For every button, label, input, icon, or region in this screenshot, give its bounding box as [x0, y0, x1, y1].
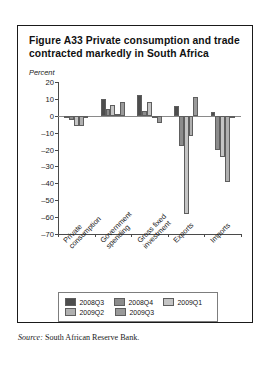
legend-item: 2009Q2 [65, 308, 115, 316]
chart-bar [147, 102, 152, 116]
y-tick-label: –10 [41, 128, 54, 137]
y-axis-unit-label: Percent [29, 68, 54, 77]
y-tick-label: –20 [41, 145, 54, 154]
y-tick-mark [55, 166, 58, 167]
y-tick-mark [55, 116, 58, 117]
y-tick-label: 0 [50, 111, 54, 120]
legend-swatch [163, 298, 174, 306]
chart-bar [174, 106, 179, 116]
figure-title: Figure A33 Private consumption and trade… [29, 34, 243, 60]
legend-item: 2008Q3 [65, 298, 114, 306]
y-tick-label: –50 [41, 196, 54, 205]
legend-item: 2009Q3 [115, 308, 165, 316]
chart-bar [120, 102, 125, 116]
source-note: Source: South African Reserve Bank. [18, 333, 139, 342]
x-tick-mark [168, 234, 169, 237]
chart-bar [84, 116, 89, 119]
y-tick-label: –60 [41, 213, 54, 222]
source-value: South African Reserve Bank. [43, 333, 139, 342]
y-tick-mark [55, 82, 58, 83]
source-label: Source: [18, 333, 43, 342]
legend-row: 2009Q22009Q3 [65, 307, 212, 317]
chart-bar [225, 116, 230, 182]
legend-swatch [65, 298, 76, 306]
x-tick-mark [241, 234, 242, 237]
y-tick-mark [55, 183, 58, 184]
legend-label: 2008Q3 [80, 299, 105, 306]
y-tick-mark [55, 217, 58, 218]
figure-frame: Figure A33 Private consumption and trade… [17, 25, 253, 323]
legend-row: 2008Q32008Q42009Q1 [65, 297, 212, 307]
legend-label: 2008Q4 [129, 299, 154, 306]
x-tick-mark [95, 234, 96, 237]
y-tick-label: 20 [46, 78, 54, 87]
y-tick-mark [55, 150, 58, 151]
y-tick-label: –40 [41, 179, 54, 188]
x-tick-mark [131, 234, 132, 237]
legend-label: 2009Q2 [80, 309, 105, 316]
legend-item: 2008Q4 [114, 298, 163, 306]
chart-bar [230, 116, 235, 118]
legend-swatch [114, 298, 125, 306]
y-tick-mark [55, 99, 58, 100]
chart-bar [157, 116, 162, 123]
legend-label: 2009Q3 [130, 309, 155, 316]
legend-swatch [115, 308, 126, 316]
x-tick-mark [204, 234, 205, 237]
figure-page: Figure A33 Private consumption and trade… [0, 0, 273, 375]
legend-swatch [65, 308, 76, 316]
legend-item: 2009Q1 [163, 298, 212, 306]
y-tick-mark [55, 133, 58, 134]
chart-legend: 2008Q32008Q42009Q12009Q22009Q3 [58, 292, 218, 322]
legend-label: 2009Q1 [178, 299, 203, 306]
y-tick-label: –30 [41, 162, 54, 171]
y-tick-label: –70 [41, 230, 54, 239]
y-tick-mark [55, 200, 58, 201]
y-tick-label: 10 [46, 94, 54, 103]
chart-bar [193, 97, 198, 116]
chart-plot-area: 20100–10–20–30–40–50–60–70 [58, 82, 241, 234]
x-tick-mark [58, 234, 59, 237]
chart-bar [189, 116, 194, 136]
y-axis-line [58, 82, 59, 234]
